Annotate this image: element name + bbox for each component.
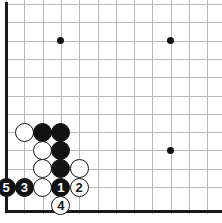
move-number-label: 1 <box>57 180 64 193</box>
white-stone <box>33 159 52 178</box>
black-stone <box>51 123 70 142</box>
board-stones: 53124 <box>0 0 222 223</box>
white-stone <box>70 159 89 178</box>
move-stone-3: 3 <box>15 178 34 197</box>
move-stone-5: 5 <box>0 178 16 197</box>
move-number-label: 5 <box>2 180 9 193</box>
black-stone <box>51 141 70 160</box>
go-board-diagram: 53124 <box>0 0 222 223</box>
move-stone-1: 1 <box>51 178 70 197</box>
white-stone <box>33 141 52 160</box>
move-number-label: 4 <box>57 198 64 211</box>
black-stone <box>51 159 70 178</box>
white-stone <box>33 178 52 197</box>
black-stone <box>33 123 52 142</box>
move-number-label: 2 <box>76 180 83 193</box>
move-stone-4: 4 <box>51 196 70 215</box>
move-number-label: 3 <box>21 180 28 193</box>
white-stone <box>15 123 34 142</box>
move-stone-2: 2 <box>70 178 89 197</box>
